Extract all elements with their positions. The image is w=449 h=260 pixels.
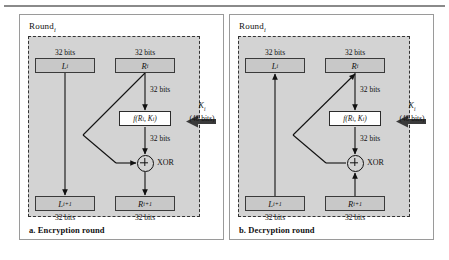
decryption-key-name: Ki [409, 101, 416, 110]
decryption-key-size: (48 bits) [399, 114, 424, 123]
decryption-block-R-i1-sub: i+1 [353, 201, 362, 207]
encryption-block-R-i1: Ri+1 [115, 196, 175, 211]
encryption-key-name: Ki [199, 101, 206, 110]
encryption-function-text: f(R [133, 114, 142, 123]
decryption-top-left-bits: 32 bits [242, 48, 308, 57]
encryption-top-right-bits: 32 bits [112, 48, 178, 57]
decryption-block-R-i1: Ri+1 [325, 196, 385, 211]
decryption-function-close: ) [364, 114, 367, 123]
encryption-block-L-i1: Li+1 [35, 196, 95, 211]
decryption-xor-label: XOR [367, 158, 384, 167]
decryption-block-L-i1: Li+1 [245, 196, 305, 211]
decryption-xor-gate [347, 155, 364, 172]
encryption-key-size: (48 bits) [189, 114, 214, 123]
encryption-key-sub: i [204, 106, 206, 112]
encryption-block-R-i: Ri [115, 58, 175, 73]
encryption-lower-bits: 32 bits [150, 134, 170, 143]
decryption-key-label: Ki (48 bits) [390, 101, 434, 123]
encryption-block-R-i1-sub: i+1 [143, 201, 152, 207]
decryption-key-sub: i [414, 106, 416, 112]
decryption-caption: b. Decryption round [239, 225, 315, 235]
decryption-block-R-i-sub: i [357, 63, 359, 69]
top-divider-rule [4, 5, 445, 7]
encryption-block-L-i-sub: i [67, 63, 69, 69]
decryption-bottom-left-bits: 32 bits [242, 213, 308, 222]
encryption-round-panel: Roundi 32 bits 32 bits Li [19, 14, 224, 240]
decryption-block-L-i-sub: i [277, 63, 279, 69]
decryption-round-panel: Roundi 32 bits 32 bits Li Ri 32 bits f(R… [229, 14, 434, 240]
decryption-block-L-i: Li [245, 58, 305, 73]
decryption-lower-bits: 32 bits [360, 134, 380, 143]
decryption-block-R-i: Ri [325, 58, 385, 73]
decryption-block-L-i1-sub: i+1 [273, 201, 282, 207]
encryption-function-mid: , K [144, 114, 153, 123]
decryption-mid-bits: 32 bits [360, 85, 380, 94]
encryption-function-close: ) [154, 114, 157, 123]
encryption-block-L-i: Li [35, 58, 95, 73]
decryption-function-box: f(Ri, Ki) [329, 111, 381, 126]
encryption-top-left-bits: 32 bits [32, 48, 98, 57]
encryption-bottom-right-bits: 32 bits [112, 213, 178, 222]
encryption-function-box: f(Ri, Ki) [119, 111, 171, 126]
decryption-bottom-right-bits: 32 bits [322, 213, 388, 222]
decryption-function-mid: , K [354, 114, 363, 123]
encryption-mid-bits: 32 bits [150, 85, 170, 94]
encryption-block-R-i-sub: i [147, 63, 149, 69]
encryption-key-label: Ki (48 bits) [180, 101, 224, 123]
encryption-xor-label: XOR [157, 158, 174, 167]
encryption-block-L-i1-sub: i+1 [63, 201, 72, 207]
decryption-top-right-bits: 32 bits [322, 48, 388, 57]
encryption-xor-gate [137, 155, 154, 172]
encryption-bottom-left-bits: 32 bits [32, 213, 98, 222]
encryption-caption: a. Encryption round [29, 225, 105, 235]
decryption-function-text: f(R [343, 114, 352, 123]
